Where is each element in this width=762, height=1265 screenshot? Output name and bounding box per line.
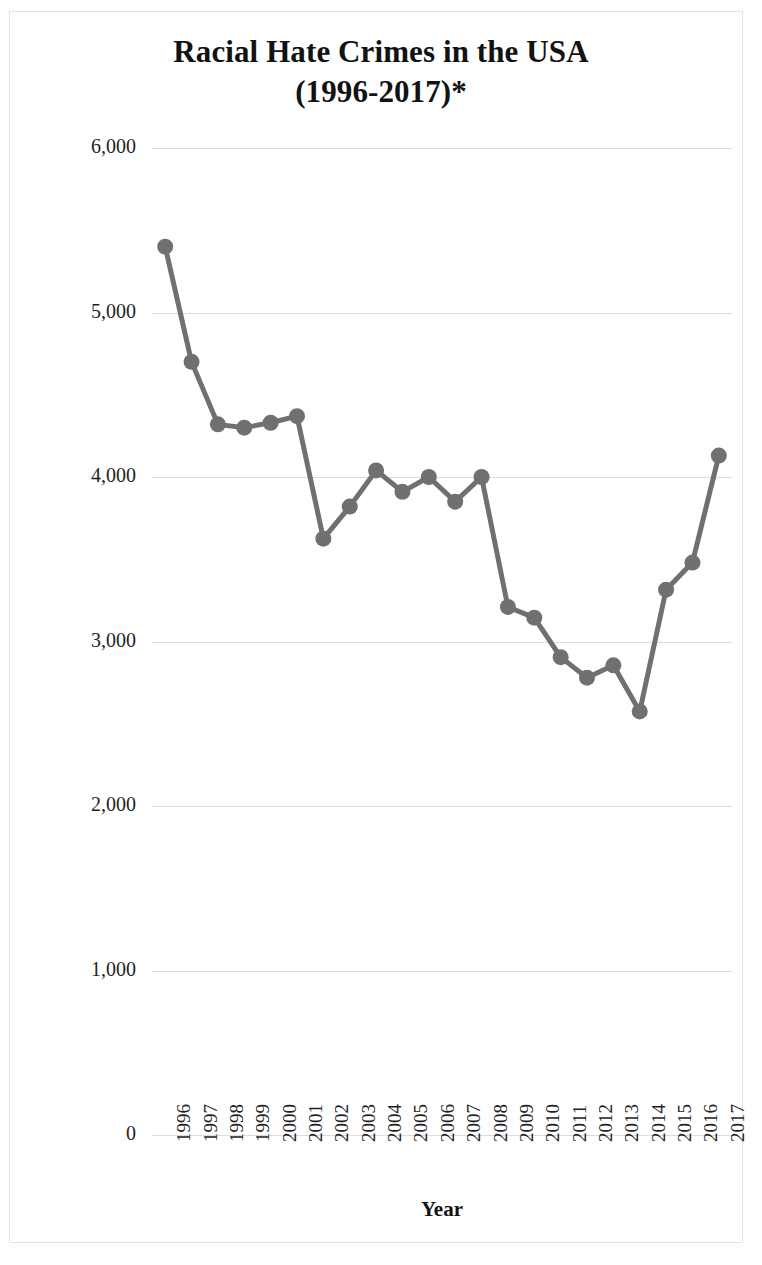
x-tick-label-2002: 2002 <box>331 1120 353 1142</box>
x-tick-label-1996: 1996 <box>173 1120 195 1142</box>
plot-area <box>152 148 732 1135</box>
y-tick-label: 5,000 <box>40 300 136 323</box>
x-tick-label-2009: 2009 <box>516 1120 538 1142</box>
x-tick-label-2013: 2013 <box>621 1120 643 1142</box>
x-tick-label-2010: 2010 <box>542 1120 564 1142</box>
x-tick-label-1999: 1999 <box>252 1120 274 1142</box>
data-point-2012 <box>579 670 595 686</box>
data-point-2010 <box>526 610 542 626</box>
data-point-2013 <box>605 657 621 673</box>
data-point-2017 <box>711 448 727 464</box>
x-tick-label-1998: 1998 <box>226 1120 248 1142</box>
data-point-2002 <box>315 531 331 547</box>
data-point-2001 <box>289 408 305 424</box>
x-tick-label-1997: 1997 <box>200 1120 222 1142</box>
data-point-2003 <box>342 499 358 515</box>
x-tick-label-2004: 2004 <box>384 1120 406 1142</box>
chart-title-line-1: Racial Hate Crimes in the USA <box>0 32 762 72</box>
data-point-1998 <box>210 416 226 432</box>
data-point-2009 <box>500 599 516 615</box>
x-tick-label-2005: 2005 <box>410 1120 432 1142</box>
data-point-2000 <box>263 415 279 431</box>
x-tick-label-2007: 2007 <box>463 1120 485 1142</box>
x-tick-label-2001: 2001 <box>305 1120 327 1142</box>
data-point-2004 <box>368 462 384 478</box>
data-point-2007 <box>447 494 463 510</box>
data-point-2014 <box>632 703 648 719</box>
line-series-racial-hate-crimes <box>152 148 732 1135</box>
x-tick-label-2000: 2000 <box>279 1120 301 1142</box>
y-tick-label: 2,000 <box>40 793 136 816</box>
y-tick-label: 6,000 <box>40 135 136 158</box>
data-point-2008 <box>474 469 490 485</box>
data-point-2011 <box>553 649 569 665</box>
x-tick-label-2011: 2011 <box>569 1120 591 1142</box>
y-tick-label: 1,000 <box>40 958 136 981</box>
data-point-2006 <box>421 469 437 485</box>
data-point-1996 <box>157 239 173 255</box>
chart-figure: Racial Hate Crimes in the USA (1996-2017… <box>0 0 762 1265</box>
series-markers <box>157 239 727 720</box>
x-tick-label-2008: 2008 <box>490 1120 512 1142</box>
x-tick-label-2003: 2003 <box>358 1120 380 1142</box>
x-tick-label-2016: 2016 <box>700 1120 722 1142</box>
x-axis-title: Year <box>152 1197 732 1222</box>
x-tick-label-2015: 2015 <box>674 1120 696 1142</box>
data-point-2015 <box>658 582 674 598</box>
x-tick-label-2012: 2012 <box>595 1120 617 1142</box>
data-point-2005 <box>394 484 410 500</box>
y-tick-label: 0 <box>40 1122 136 1145</box>
x-tick-label-2014: 2014 <box>648 1120 670 1142</box>
x-tick-label-2006: 2006 <box>437 1120 459 1142</box>
data-point-2016 <box>684 555 700 571</box>
chart-title-line-2: (1996-2017)* <box>0 72 762 112</box>
series-line <box>165 247 719 712</box>
chart-title: Racial Hate Crimes in the USA (1996-2017… <box>0 32 762 111</box>
x-tick-label-2017: 2017 <box>727 1120 749 1142</box>
data-point-1997 <box>184 354 200 370</box>
y-tick-label: 4,000 <box>40 464 136 487</box>
y-tick-label: 3,000 <box>40 629 136 652</box>
data-point-1999 <box>236 420 252 436</box>
